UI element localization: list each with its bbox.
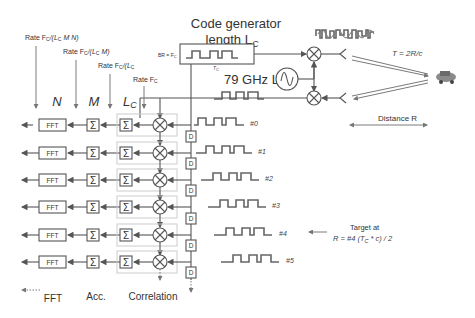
svg-text:Σ: Σ bbox=[90, 120, 96, 131]
svg-text:Rate FC/(LC M N): Rate FC/(LC M N) bbox=[25, 34, 79, 42]
svg-text:FFT: FFT bbox=[47, 204, 59, 211]
svg-text:Σ: Σ bbox=[90, 257, 96, 268]
rx-beam bbox=[352, 80, 428, 99]
svg-text:FFT: FFT bbox=[47, 232, 59, 239]
svg-text:Rate FC: Rate FC bbox=[133, 76, 158, 84]
svg-text:D: D bbox=[189, 242, 194, 249]
delay-block-0: D bbox=[186, 131, 196, 142]
svg-text:Σ: Σ bbox=[123, 230, 129, 241]
code-generator-title: Code generator bbox=[191, 16, 282, 31]
footer-acc-label: Acc. bbox=[86, 291, 105, 302]
svg-text:FFT: FFT bbox=[47, 177, 59, 184]
tx-mixer bbox=[307, 47, 321, 61]
tap-waveform-2: #2 bbox=[201, 173, 273, 182]
svg-text:FFT: FFT bbox=[47, 150, 59, 157]
channel-row-1: FFT Σ Σ bbox=[22, 142, 191, 173]
svg-text:#3: #3 bbox=[272, 202, 280, 209]
delay-block-2: D bbox=[186, 185, 196, 196]
tap-waveform-0: #0 bbox=[194, 118, 258, 127]
footer-correlation-label: Correlation bbox=[129, 291, 178, 302]
channel-row-4: FFT Σ Σ bbox=[22, 224, 191, 255]
svg-text:Rate FC/(LC: Rate FC/(LC bbox=[98, 62, 135, 70]
tx-beam bbox=[352, 56, 428, 76]
target-car-icon bbox=[436, 71, 456, 84]
target-formula: R = #4 (TC * c) / 2 bbox=[333, 234, 393, 244]
svg-text:Rate FC/(LC M): Rate FC/(LC M) bbox=[63, 48, 110, 56]
delay-block-1: D bbox=[186, 158, 196, 169]
stage-header-m: M bbox=[89, 94, 100, 109]
svg-text:#5: #5 bbox=[286, 257, 294, 264]
rx-mixer bbox=[307, 91, 321, 105]
chip-duration-label: TC bbox=[213, 65, 219, 72]
svg-text:#1: #1 bbox=[258, 148, 266, 155]
channel-row-2: FFT Σ Σ bbox=[22, 169, 191, 200]
footer-fft-label: FFT bbox=[44, 293, 62, 304]
rx-antenna-icon bbox=[340, 93, 346, 103]
svg-text:Σ: Σ bbox=[90, 148, 96, 159]
svg-text:Σ: Σ bbox=[90, 175, 96, 186]
bit-rate-label: BR = FC bbox=[158, 52, 177, 59]
stage-header-n: N bbox=[52, 94, 62, 109]
svg-text:#4: #4 bbox=[279, 230, 287, 237]
tx-antenna-icon bbox=[340, 49, 346, 59]
rate-label-fft: Rate FC/(LC M N) bbox=[25, 34, 79, 42]
rate-label-correlation: Rate FC bbox=[133, 76, 158, 84]
channel-row-0: FFT Σ Σ bbox=[22, 114, 191, 145]
svg-text:FFT: FFT bbox=[47, 122, 59, 129]
tap-waveform-3: #3 bbox=[208, 200, 280, 209]
delay-block-5: D bbox=[186, 267, 196, 278]
svg-text:D: D bbox=[189, 187, 194, 194]
channel-row-3: FFT Σ Σ bbox=[22, 196, 191, 227]
channel-row-5: FFT Σ Σ bbox=[22, 251, 191, 280]
delay-block-4: D bbox=[186, 240, 196, 251]
tap-waveform-5: #5 bbox=[221, 255, 294, 264]
svg-text:#0: #0 bbox=[250, 120, 258, 127]
svg-text:Σ: Σ bbox=[123, 120, 129, 131]
svg-text:D: D bbox=[189, 269, 194, 276]
svg-text:D: D bbox=[189, 133, 194, 140]
svg-text:Σ: Σ bbox=[123, 202, 129, 213]
delay-label: T = 2R/c bbox=[392, 49, 422, 58]
svg-text:FFT: FFT bbox=[47, 259, 59, 266]
svg-text:D: D bbox=[189, 160, 194, 167]
rate-label-sum: Rate FC/(LC bbox=[98, 62, 135, 70]
svg-text:Σ: Σ bbox=[123, 148, 129, 159]
code-generator-box bbox=[180, 44, 254, 64]
svg-text:Σ: Σ bbox=[90, 230, 96, 241]
delay-block-3: D bbox=[186, 213, 196, 224]
radar-correlator-diagram: Code generator length LC BR = FC TC 79 G… bbox=[0, 0, 475, 318]
svg-text:Σ: Σ bbox=[90, 202, 96, 213]
svg-text:LC: LC bbox=[123, 94, 137, 110]
svg-text:#2: #2 bbox=[265, 175, 273, 182]
tap-waveform-1: #1 bbox=[196, 146, 266, 155]
svg-text:Σ: Σ bbox=[123, 175, 129, 186]
tap-waveform-4: #4 bbox=[214, 228, 287, 237]
target-label: Target at bbox=[350, 223, 380, 232]
stage-header-lc: LC bbox=[123, 94, 137, 110]
svg-text:Σ: Σ bbox=[123, 257, 129, 268]
rate-label-acc: Rate FC/(LC M) bbox=[63, 48, 110, 56]
svg-text:R = #4 (TC * c) / 2: R = #4 (TC * c) / 2 bbox=[333, 234, 393, 244]
svg-text:D: D bbox=[189, 215, 194, 222]
distance-label: Distance R bbox=[378, 114, 417, 123]
